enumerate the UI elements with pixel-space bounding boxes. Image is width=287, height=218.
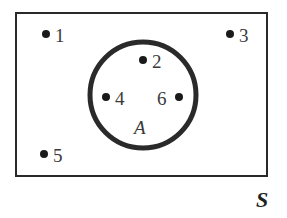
dot-icon [42,30,50,38]
point-6: 6 [157,88,183,109]
point-5: 5 [40,145,63,166]
point-label: 3 [239,25,249,46]
point-label: 2 [152,51,162,72]
dot-icon [102,93,110,101]
venn-diagram: 1 3 2 4 6 5 A S [0,0,287,218]
point-label: 1 [55,25,65,46]
point-4: 4 [102,88,125,109]
point-label: 4 [115,88,125,109]
dot-icon [175,93,183,101]
point-3: 3 [226,25,249,46]
universe-label: S [256,187,268,212]
point-1: 1 [42,25,65,46]
dot-icon [226,30,234,38]
point-label: 6 [157,88,167,109]
dot-icon [139,56,147,64]
set-a-label: A [132,117,146,138]
point-label: 5 [53,145,63,166]
point-2: 2 [139,51,162,72]
dot-icon [40,150,48,158]
